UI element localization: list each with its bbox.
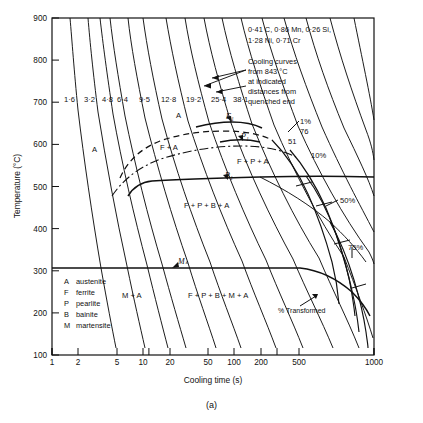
y-tick-label: 500 [33, 183, 47, 192]
percent-transformed-label: % Transformed [278, 307, 326, 314]
composition-line-2: 1·28 Ni, 0·71 Cr [248, 36, 301, 45]
y-tick-label: 900 [33, 14, 47, 23]
note-line-4: distances from [248, 87, 296, 96]
hardness-label-76: 76 [300, 127, 308, 136]
legend-name: austenite [76, 277, 106, 286]
curve-label-38-1: 38·1 [233, 95, 248, 104]
y-tick-label: 800 [33, 56, 47, 65]
cct-diagram-figure: 900 800 700 600 500 400 300 200 100 Temp… [0, 0, 423, 423]
y-tick-label: 700 [33, 98, 47, 107]
y-tick-label: 100 [33, 351, 47, 360]
curve-label-19-2: 19·2 [186, 95, 201, 104]
pct-label-50: 50% [340, 196, 355, 205]
legend-symbol: M [64, 321, 70, 330]
curve-label-4-8: 4·8 [102, 95, 113, 104]
cct-chart-svg: 900 800 700 600 500 400 300 200 100 Temp… [0, 0, 423, 423]
plot-frame [52, 18, 374, 355]
legend-symbol: F [64, 288, 69, 297]
curve-label-1-6: 1·6 [64, 95, 75, 104]
curve-label-9-5: 9·5 [139, 95, 150, 104]
curve-label-25-4: 25·4 [211, 95, 226, 104]
note-line-2: from 843 °C [248, 67, 288, 76]
pct-label-1: 1% [300, 117, 311, 126]
curve-label-12-8: 12·8 [161, 95, 176, 104]
region-label-f-p-a: F + P + A [237, 157, 269, 166]
y-tick-label: 300 [33, 267, 47, 276]
y-tick-label: 600 [33, 140, 47, 149]
legend-name: ferrite [76, 288, 95, 297]
legend-symbol: B [64, 310, 69, 319]
curve-label-3-2: 3·2 [84, 95, 95, 104]
pct-label-10: 10% [311, 151, 326, 160]
y-tick-label: 200 [33, 309, 47, 318]
legend-name: bainite [76, 310, 98, 319]
region-label-f-p-b-m-a: F + P + B + M + A [188, 291, 249, 300]
note-line-3: at indicated [248, 77, 286, 86]
pct-label-75: 75% [348, 243, 363, 252]
legend-symbol: P [64, 299, 69, 308]
point-label-ms: Mₛ [177, 257, 189, 266]
legend-symbol: A [64, 277, 69, 286]
region-label-m-a: M + A [122, 291, 143, 300]
region-label-f-p-b-a: F + P + B + A [184, 201, 230, 210]
curve-label-6-4: 6·4 [117, 95, 128, 104]
figure-caption: (a) [0, 400, 423, 410]
y-axis-title: Temperature (°C) [12, 154, 22, 219]
x-axis-title: Cooling time (s) [184, 375, 243, 385]
composition-line-1: 0·41 C, 0·86 Mn, 0·26 Si, [248, 25, 331, 34]
legend-name: martensite [76, 321, 111, 330]
hardness-label-51: 51 [288, 137, 296, 146]
y-tick-label: 400 [33, 225, 47, 234]
legend-name: pearlite [76, 299, 100, 308]
note-line-1: Cooling curves [248, 57, 297, 66]
region-label-f-a: F + A [160, 143, 179, 152]
